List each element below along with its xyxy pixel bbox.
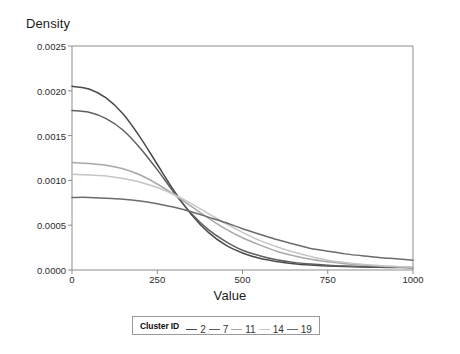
legend-swatch-icon	[186, 329, 197, 330]
x-tick-label: 0	[69, 274, 74, 285]
y-tick-label: 0.0005	[22, 220, 66, 231]
y-tick-label: 0.0000	[22, 265, 66, 276]
legend-label: 14	[273, 324, 284, 335]
legend-swatch-icon	[209, 329, 220, 330]
series-line-2	[72, 86, 413, 267]
x-tick-label: 750	[320, 274, 336, 285]
legend-label: 19	[301, 324, 312, 335]
legend-entries: 27111419	[183, 316, 312, 335]
legend-label: 7	[223, 324, 229, 335]
legend-item-19[interactable]: 19	[287, 324, 312, 335]
legend-item-14[interactable]: 14	[259, 324, 284, 335]
legend-swatch-icon	[259, 329, 270, 330]
y-tick-label: 0.0020	[22, 85, 66, 96]
x-tick-label: 250	[149, 274, 165, 285]
legend-item-7[interactable]: 7	[209, 324, 229, 335]
legend-label: 2	[200, 324, 206, 335]
y-tick-label: 0.0010	[22, 175, 66, 186]
legend-swatch-icon	[287, 329, 298, 330]
x-tick-label: 1000	[402, 274, 423, 285]
legend-swatch-icon	[231, 329, 242, 330]
y-tick-label: 0.0025	[22, 41, 66, 52]
x-tick-label: 500	[235, 274, 251, 285]
y-tick-label: 0.0015	[22, 130, 66, 141]
series-line-7	[72, 111, 413, 268]
legend-title: Cluster ID	[140, 321, 179, 331]
legend-item-2[interactable]: 2	[186, 324, 206, 335]
legend-item-11[interactable]: 11	[231, 324, 255, 335]
density-chart: Density 0.00000.00050.00100.00150.00200.…	[0, 0, 460, 354]
x-axis-title: Value	[0, 288, 460, 303]
legend-label: 11	[245, 324, 255, 335]
legend[interactable]: Cluster ID 27111419	[132, 316, 320, 335]
